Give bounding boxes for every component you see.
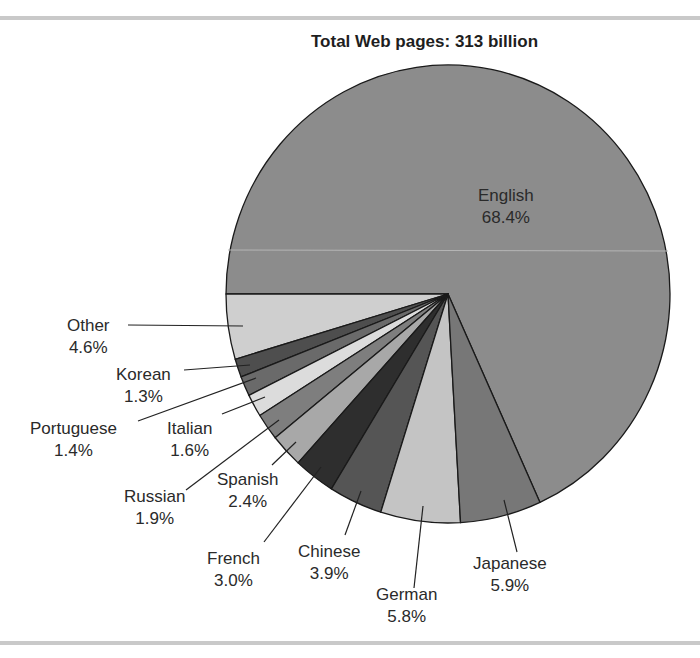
- label-other: Other4.6%: [67, 315, 110, 359]
- label-russian: Russian1.9%: [124, 486, 185, 530]
- label-chinese: Chinese3.9%: [298, 541, 360, 585]
- pie-slices: [226, 65, 670, 523]
- label-french: French3.0%: [207, 548, 260, 592]
- label-english: English68.4%: [478, 185, 534, 229]
- bottom-rule: [0, 641, 700, 645]
- label-portuguese: Portuguese1.4%: [30, 418, 117, 462]
- label-spanish: Spanish2.4%: [217, 469, 278, 513]
- label-german: German5.8%: [376, 584, 437, 628]
- label-japanese: Japanese5.9%: [473, 553, 547, 597]
- label-korean: Korean1.3%: [116, 364, 171, 408]
- label-italian: Italian1.6%: [167, 418, 212, 462]
